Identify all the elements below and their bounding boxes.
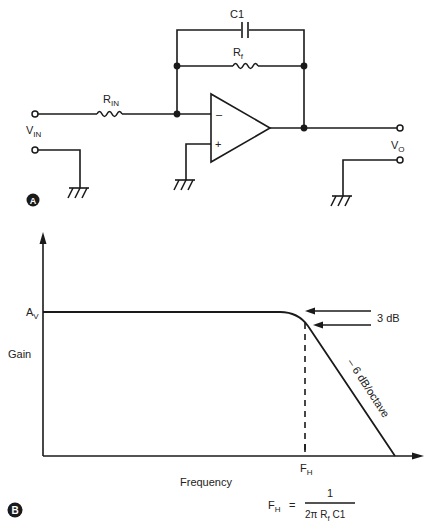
- arrowhead-icon: [313, 322, 323, 329]
- input-terminal-icon: [32, 111, 38, 117]
- output-terminal-icon: [397, 125, 403, 131]
- input-voltage-label: VIN: [26, 124, 42, 139]
- x-axis-label: Frequency: [180, 476, 232, 488]
- svg-text:2π Rf C1: 2π Rf C1: [305, 509, 346, 523]
- capacitor-wire-left: [177, 30, 241, 65]
- ground-icon: [331, 196, 352, 206]
- figure-b-badge: B: [8, 503, 23, 518]
- opamp-inverting-input: –: [216, 108, 223, 120]
- svg-text:1: 1: [327, 487, 333, 499]
- junction-dot: [174, 63, 181, 70]
- svg-text:FH: FH: [268, 499, 281, 514]
- slope-label: – 6 dB/octave: [345, 357, 392, 420]
- feedback-resistor-label: Rf: [233, 46, 244, 61]
- junction-dot: [301, 63, 308, 70]
- capacitor-label: C1: [230, 8, 244, 20]
- circuit-schematic: C1 Rf – + RIN VIN: [26, 8, 405, 207]
- three-db-label: 3 dB: [377, 312, 400, 324]
- feedback-resistor-icon: [233, 64, 258, 69]
- svg-text:A: A: [30, 196, 37, 206]
- ground-icon: [68, 188, 89, 198]
- cutoff-formula: FH = 1 2π Rf C1: [268, 487, 355, 523]
- diagram-canvas: C1 Rf – + RIN VIN: [0, 0, 431, 528]
- svg-text:B: B: [11, 505, 18, 516]
- svg-text:=: =: [289, 499, 295, 511]
- cutoff-frequency-label: FH: [300, 462, 313, 477]
- y-axis-label: Gain: [8, 348, 31, 360]
- gain-curve: [43, 312, 395, 456]
- input-ground-terminal-icon: [32, 147, 38, 153]
- output-voltage-label: VO: [391, 139, 405, 154]
- capacitor-wire-right: [249, 30, 304, 65]
- input-resistor-icon: [97, 112, 122, 117]
- output-ground-terminal-icon: [397, 157, 403, 163]
- x-axis-arrow-icon: [412, 453, 424, 460]
- frequency-response-chart: AV Gain Frequency FH 3 dB – 6 dB/octave …: [8, 232, 425, 523]
- opamp-noninverting-input: +: [215, 138, 221, 150]
- y-axis-arrow-icon: [40, 232, 47, 244]
- arrowhead-icon: [305, 308, 315, 315]
- capacitor-icon: [242, 22, 248, 38]
- gain-level-label: AV: [26, 306, 39, 321]
- ground-icon: [174, 180, 195, 190]
- output-ground-wire: [343, 160, 397, 196]
- figure-a-badge: A: [27, 194, 40, 207]
- input-resistor-label: RIN: [103, 93, 119, 108]
- input-ground-wire: [38, 150, 80, 188]
- opamp-icon: [211, 94, 270, 162]
- noninverting-ground-wire: [186, 144, 211, 180]
